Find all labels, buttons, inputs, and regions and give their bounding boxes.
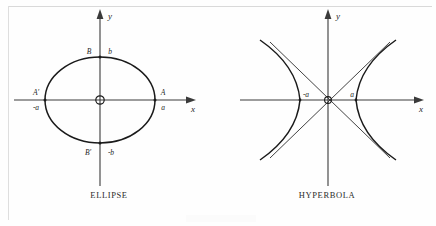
scan-artifact xyxy=(186,215,256,222)
figure-panel-ellipse: y x A' -a A a B b B' -b ELLIPSE xyxy=(0,0,218,226)
ellipse-vertex-right-dot xyxy=(154,99,157,102)
ellipse-covertex-top-dot xyxy=(99,56,102,59)
hyperbola-y-axis-label: y xyxy=(335,11,340,21)
ellipse-x-axis xyxy=(14,97,196,104)
ellipse-covertex-top-value: b xyxy=(108,47,112,56)
hyperbola-vertex-left-dot xyxy=(299,99,302,102)
hyperbola-vertex-left-value: -a xyxy=(303,90,309,99)
ellipse-vertex-right-letter: A xyxy=(160,88,166,97)
ellipse-covertex-bottom-dot xyxy=(99,142,102,145)
figure-page: y x A' -a A a B b B' -b ELLIPSE xyxy=(0,0,436,226)
hyperbola-caption: HYPERBOLA xyxy=(218,190,436,200)
ellipse-vertex-left-value: -a xyxy=(33,103,39,112)
hyperbola-x-axis-label: x xyxy=(418,104,423,114)
ellipse-covertex-bottom-letter: B' xyxy=(85,148,92,157)
figure-panel-hyperbola: y x -a a HYPERBOLA xyxy=(218,0,436,226)
ellipse-covertex-top-letter: B xyxy=(87,47,92,56)
ellipse-vertex-left-letter: A' xyxy=(32,88,40,97)
ellipse-y-axis xyxy=(97,9,104,186)
ellipse-vertex-right-value: a xyxy=(161,103,165,112)
hyperbola-diagram: y x -a a xyxy=(218,0,436,196)
ellipse-caption: ELLIPSE xyxy=(0,190,218,200)
ellipse-covertex-bottom-value: -b xyxy=(108,148,114,157)
ellipse-vertex-left-dot xyxy=(44,99,47,102)
hyperbola-vertex-right-dot xyxy=(355,99,358,102)
ellipse-y-axis-label: y xyxy=(107,11,112,21)
ellipse-x-axis-label: x xyxy=(190,104,195,114)
ellipse-diagram: y x A' -a A a B b B' -b xyxy=(0,0,218,196)
hyperbola-vertex-right-value: a xyxy=(350,90,354,99)
